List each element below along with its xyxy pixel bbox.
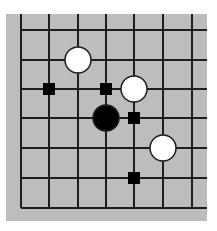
white-stone	[65, 47, 91, 73]
go-board-diagram	[0, 0, 217, 231]
square-marker	[100, 83, 112, 95]
white-stone	[150, 135, 176, 161]
square-marker	[128, 172, 140, 184]
square-marker	[128, 112, 140, 124]
black-stone	[93, 105, 119, 131]
square-marker	[43, 83, 55, 95]
white-stone	[121, 76, 147, 102]
